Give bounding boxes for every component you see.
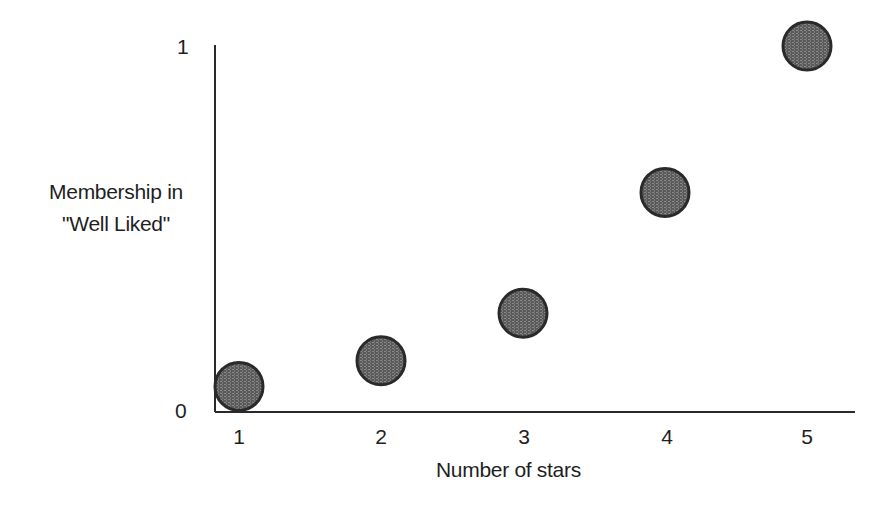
y-axis-label-line-2: "Well Liked" (30, 208, 202, 240)
chart-canvas (0, 0, 887, 512)
data-point-3 (499, 289, 547, 337)
y-tick-0: 0 (175, 399, 187, 423)
x-axis-label: Number of stars (436, 458, 581, 482)
y-tick-1: 1 (177, 35, 189, 59)
data-point-2 (357, 337, 405, 385)
data-point-1 (215, 362, 263, 410)
x-tick-2: 2 (375, 425, 387, 449)
x-tick-4: 4 (661, 425, 673, 449)
data-points (215, 22, 831, 410)
y-axis-label-line-1: Membership in (30, 176, 202, 208)
x-tick-1: 1 (233, 425, 245, 449)
x-tick-5: 5 (801, 425, 813, 449)
data-point-4 (641, 168, 689, 216)
x-tick-3: 3 (518, 425, 530, 449)
data-point-5 (783, 22, 831, 70)
y-axis-label: Membership in "Well Liked" (30, 176, 202, 240)
